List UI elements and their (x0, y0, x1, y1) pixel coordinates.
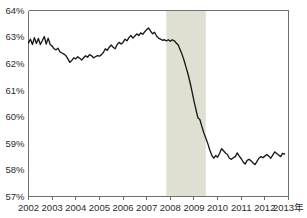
tick-mark-layer (29, 197, 289, 201)
recession-band (166, 11, 205, 197)
x-tick-label-2009: 2009 (183, 202, 204, 213)
x-axis-labels: 2002200320042005200620072008200920102011… (18, 202, 304, 213)
y-tick-label-61: 61% (5, 85, 25, 96)
x-tick-label-2010: 2010 (207, 202, 228, 213)
y-tick-label-59: 59% (5, 138, 25, 149)
y-tick-label-58: 58% (5, 164, 25, 175)
x-tick-label-2008: 2008 (160, 202, 181, 213)
x-tick-label-2002: 2002 (18, 202, 39, 213)
shaded-band-layer (166, 11, 205, 197)
x-tick-label-2004: 2004 (65, 202, 86, 213)
x-tick-label-2006: 2006 (112, 202, 133, 213)
x-tick-label-2011: 2011 (231, 202, 251, 213)
y-axis-labels: 64%63%62%61%60%59%58%57% (5, 5, 25, 202)
y-tick-label-64: 64% (5, 5, 25, 16)
x-tick-label-2013: 2013年 (273, 202, 304, 213)
chart-container: 64%63%62%61%60%59%58%57% 200220032004200… (0, 0, 307, 218)
y-tick-label-63: 63% (5, 31, 25, 42)
series-layer (29, 28, 285, 165)
series-labor-force-participation-rate (29, 28, 285, 165)
x-tick-label-2005: 2005 (89, 202, 110, 213)
x-tick-label-2003: 2003 (42, 202, 63, 213)
y-tick-label-62: 62% (5, 58, 25, 69)
x-tick-label-2007: 2007 (136, 202, 157, 213)
line-chart: 64%63%62%61%60%59%58%57% 200220032004200… (0, 0, 307, 218)
y-tick-label-57: 57% (5, 191, 25, 202)
y-tick-label-60: 60% (5, 111, 25, 122)
